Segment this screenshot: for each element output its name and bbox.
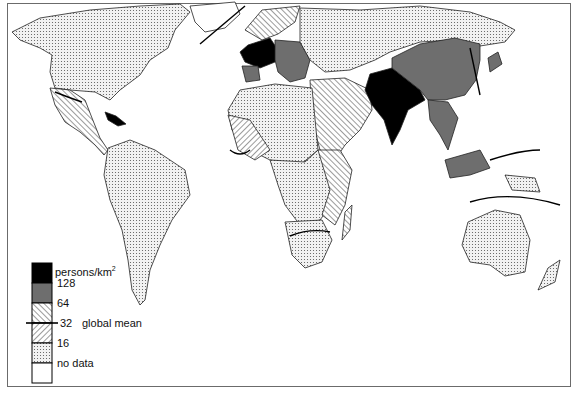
legend-title: persons/km2	[55, 265, 116, 278]
region-western-europe	[240, 38, 278, 68]
region-middle-east	[310, 78, 372, 160]
region-se-asia	[428, 100, 458, 150]
legend-break-64: 64	[57, 297, 69, 309]
region-southern-africa	[285, 220, 332, 268]
legend-break-128: 128	[57, 277, 75, 289]
region-iberia	[242, 66, 260, 82]
world-map	[0, 0, 577, 396]
region-japan	[488, 52, 502, 72]
region-indonesia	[445, 150, 490, 178]
region-madagascar	[342, 205, 352, 240]
region-new-guinea	[505, 175, 540, 192]
region-mexico-central-america	[50, 88, 108, 155]
legend-global-mean-label: global mean	[82, 317, 142, 329]
region-south-america	[104, 140, 190, 305]
region-australia	[462, 210, 530, 276]
legend-swatches	[26, 263, 58, 383]
region-new-zealand	[538, 260, 560, 290]
region-scandinavia	[245, 6, 300, 40]
legend-break-16: 16	[57, 337, 69, 349]
region-caribbean	[105, 112, 126, 126]
region-north-america	[12, 4, 190, 100]
legend-no-data-label: no data	[57, 357, 94, 369]
legend-break-32: 32	[60, 317, 72, 329]
